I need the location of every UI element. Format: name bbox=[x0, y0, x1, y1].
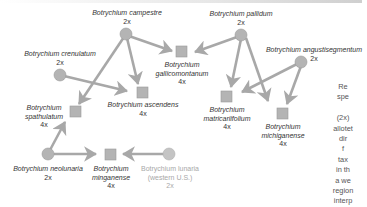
caption-line: a we bbox=[318, 176, 367, 186]
caption-line: interp bbox=[318, 196, 367, 206]
caption-line: allotet bbox=[318, 124, 367, 134]
species-name-1: Botrychium bbox=[26, 104, 61, 111]
caption-line: region bbox=[318, 186, 367, 196]
node-gallicomontanum bbox=[176, 46, 187, 57]
label-matricariifolium: Botrychium matricariifolium 4x bbox=[197, 106, 257, 132]
label-michiganense: Botrychium michiganense 4x bbox=[254, 123, 312, 149]
ploidy: 2x bbox=[44, 174, 51, 181]
edge-pallidum-matricariifolium bbox=[231, 39, 241, 87]
species-name-2: gallicomontanum bbox=[156, 70, 209, 77]
ploidy: 2x bbox=[56, 59, 63, 66]
caption-line: tax bbox=[318, 155, 367, 165]
label-tunux: Botrychium lunaria (western U.S.) 2x bbox=[138, 165, 202, 191]
label-ascendens: Botrychium ascendens 4x bbox=[105, 101, 181, 118]
species-name: Botrychium angustisegmentum bbox=[266, 46, 362, 53]
ploidy: 4x bbox=[178, 78, 185, 85]
species-name: Botrychium crenulatum bbox=[24, 50, 96, 57]
species-name-2: michiganense bbox=[261, 132, 304, 139]
species-name: Botrychium pallidum bbox=[209, 10, 272, 17]
ploidy: 2x bbox=[123, 18, 130, 25]
label-minganense: Botrychium minganense 4x bbox=[85, 165, 137, 191]
node-minganense bbox=[105, 149, 116, 160]
ploidy: 4x bbox=[279, 140, 286, 147]
edge-angustisegmentum-matricariifolium bbox=[242, 64, 297, 92]
species-name: Botrychium ascendens bbox=[108, 101, 179, 108]
node-ascendens bbox=[137, 87, 148, 98]
ploidy: 4x bbox=[40, 121, 47, 128]
ploidy: 4x bbox=[223, 123, 230, 130]
node-matricariifolium bbox=[221, 91, 232, 102]
caption-line bbox=[318, 103, 367, 113]
species-name-1: Botrychium bbox=[164, 61, 199, 68]
caption-line: spe bbox=[318, 92, 367, 102]
label-angustisegmentum: Botrychium angustisegmentum 2x bbox=[264, 46, 364, 63]
node-spathulatum bbox=[70, 106, 81, 117]
species-name-2: matricariifolium bbox=[203, 115, 250, 122]
label-spathulatum: Botrychium spathulatum 4x bbox=[20, 104, 68, 130]
species-name-2: spathulatum bbox=[25, 113, 63, 120]
caption-line: in th bbox=[318, 165, 367, 175]
node-crenulatum bbox=[54, 69, 66, 81]
caption-line: f bbox=[318, 144, 367, 154]
label-neolunaria: Botrychium neolunaria 2x bbox=[10, 165, 86, 182]
caption-line: dir bbox=[318, 134, 367, 144]
ploidy: 2x bbox=[237, 19, 244, 26]
species-name-1: Botrychium bbox=[209, 106, 244, 113]
caption-line: (2x) bbox=[318, 113, 367, 123]
caption-text-clipped: Re spe (2x) allotet dir f tax in th a we… bbox=[318, 82, 367, 207]
caption-line: Re bbox=[318, 82, 367, 92]
species-name: Botrychium lunaria bbox=[141, 165, 199, 172]
ploidy: 4x bbox=[139, 110, 146, 117]
region: (western U.S.) bbox=[148, 174, 193, 181]
species-name-1: Botrychium bbox=[265, 123, 300, 130]
label-crenulatum: Botrychium crenulatum 2x bbox=[22, 50, 98, 67]
label-pallidum: Botrychium pallidum 2x bbox=[206, 10, 276, 27]
edge-campestre-spathulatum bbox=[79, 37, 124, 104]
edge-campestre-gallicomontanum bbox=[129, 36, 172, 51]
edge-angustisegmentum-michiganense bbox=[287, 66, 301, 104]
edge-pallidum-gallicomontanum bbox=[195, 37, 237, 52]
node-tunux bbox=[163, 148, 175, 160]
label-campestre: Botrychium campestre 2x bbox=[92, 9, 162, 26]
ploidy: 4x bbox=[107, 182, 114, 189]
species-name-2: minganense bbox=[92, 174, 130, 181]
node-campestre bbox=[120, 28, 132, 40]
node-michiganense bbox=[277, 108, 288, 119]
species-name-1: Botrychium bbox=[93, 165, 128, 172]
ploidy: 2x bbox=[310, 55, 317, 62]
node-neolunaria bbox=[42, 148, 54, 160]
edge-campestre-ascendens bbox=[127, 38, 138, 84]
species-name: Botrychium campestre bbox=[92, 9, 162, 16]
node-pallidum bbox=[235, 29, 247, 41]
label-gallicomontanum: Botrychium gallicomontanum 4x bbox=[152, 61, 212, 87]
species-name: Botrychium neolunaria bbox=[13, 165, 83, 172]
ploidy: 2x bbox=[166, 182, 173, 189]
